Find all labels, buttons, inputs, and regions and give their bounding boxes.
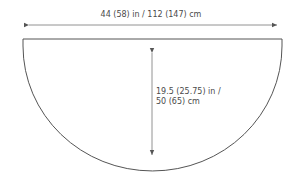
- depth-label-line-1: 19.5 (25.75) in /: [156, 87, 221, 97]
- width-measurement-label: 44 (58) in / 112 (147) cm: [0, 10, 302, 20]
- half-circle-schematic: [0, 0, 302, 185]
- depth-label-line-2: 50 (65) cm: [156, 97, 221, 107]
- schematic-diagram: 44 (58) in / 112 (147) cm 19.5 (25.75) i…: [0, 0, 302, 185]
- depth-measurement-label: 19.5 (25.75) in / 50 (65) cm: [156, 87, 221, 107]
- half-circle-outline: [23, 39, 282, 171]
